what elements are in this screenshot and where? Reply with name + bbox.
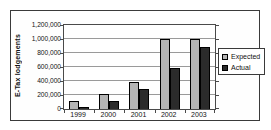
legend: ExpectedActual (218, 48, 265, 75)
y-axis-title: E-Tax lodgements (12, 24, 22, 108)
y-axis-tick (60, 67, 64, 68)
x-tick-label: 1999 (70, 111, 86, 118)
bar-actual-2002 (170, 68, 180, 109)
chart-frame: E-Tax lodgements 0200,000400,000600,0008… (10, 10, 260, 121)
x-axis-labels: 19992000200120022003 (63, 111, 216, 121)
bar-group-2001 (124, 82, 154, 109)
legend-marker-actual-icon (222, 65, 228, 71)
legend-item-actual: Actual (222, 64, 260, 71)
bar-actual-1999 (79, 107, 89, 109)
x-tick-label: 2002 (161, 111, 177, 118)
y-tick-label: 200,000 (37, 91, 61, 98)
y-tick-label: 800,000 (37, 49, 61, 56)
legend-label: Expected (231, 53, 260, 60)
y-axis-tick (215, 39, 219, 40)
y-axis-tick (215, 95, 219, 96)
y-axis-tick (215, 25, 219, 26)
y-tick-label: 600,000 (37, 63, 61, 70)
bar-expected-2000 (99, 94, 109, 109)
y-tick-label: 1,000,000 (32, 35, 61, 42)
y-axis-tick (215, 108, 219, 109)
y-axis-tick (60, 39, 64, 40)
y-axis-labels: 0200,000400,000600,000800,0001,000,0001,… (23, 24, 63, 108)
bar-group-2002 (155, 39, 185, 109)
bar-expected-2002 (160, 39, 170, 109)
bar-group-2003 (185, 39, 215, 109)
x-tick-label: 2003 (191, 111, 207, 118)
bar-expected-2001 (129, 82, 139, 109)
legend-marker-expected-icon (222, 54, 228, 60)
bar-group-2000 (94, 94, 124, 109)
plot-area (63, 24, 216, 110)
bar-actual-2000 (109, 101, 119, 109)
y-axis-tick (60, 53, 64, 54)
legend-item-expected: Expected (222, 53, 260, 60)
chart-screenshot: E-Tax lodgements 0200,000400,000600,0008… (0, 0, 271, 130)
x-tick-label: 2000 (101, 111, 117, 118)
y-tick-label: 1,200,000 (32, 21, 61, 28)
bar-group-1999 (64, 101, 94, 109)
bar-expected-2003 (190, 39, 200, 109)
bar-actual-2003 (200, 47, 210, 109)
y-axis-tick (60, 25, 64, 26)
bar-actual-2001 (139, 89, 149, 109)
y-axis-tick (60, 95, 64, 96)
y-tick-label: 400,000 (37, 77, 61, 84)
y-axis-tick (60, 81, 64, 82)
legend-label: Actual (231, 64, 250, 71)
y-axis-tick (215, 81, 219, 82)
bar-expected-1999 (69, 101, 79, 109)
x-tick-label: 2001 (131, 111, 147, 118)
